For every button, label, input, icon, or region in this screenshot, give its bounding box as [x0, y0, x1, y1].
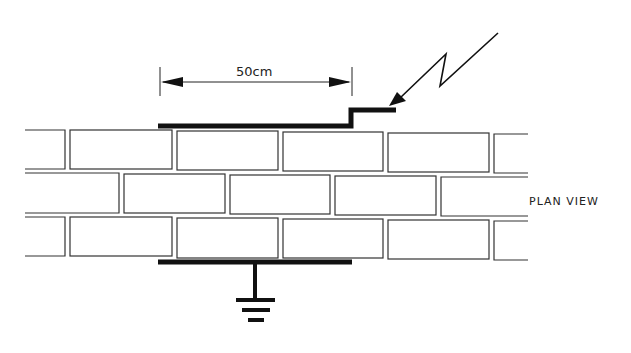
dimension-label: 50cm — [236, 64, 272, 79]
top-conductor-strip — [158, 110, 396, 126]
ground-symbol — [236, 262, 275, 320]
brick-wall — [25, 130, 528, 260]
lightning-bolt — [389, 33, 498, 106]
view-label: PLAN VIEW — [529, 195, 599, 208]
diagram-canvas — [0, 0, 631, 353]
